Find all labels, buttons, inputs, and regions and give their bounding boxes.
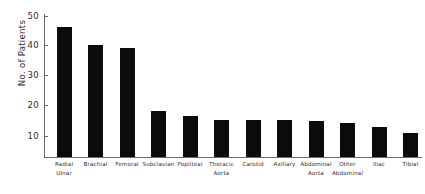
x-axis-label-line1: Abdominal bbox=[300, 161, 331, 167]
bar-4 bbox=[183, 116, 198, 157]
y-tick-label-10: 10 bbox=[11, 131, 39, 141]
x-axis-line bbox=[44, 157, 422, 158]
x-axis-label-line1: Carotid bbox=[242, 161, 263, 167]
x-axis-label-line1: Axillary bbox=[273, 161, 295, 167]
bar-1 bbox=[88, 45, 103, 157]
x-axis-label-line1: Thoracic bbox=[209, 161, 234, 167]
x-axis-label-line2: Aorta bbox=[203, 169, 241, 178]
bar-7 bbox=[277, 120, 292, 157]
y-tick-label-50: 50 bbox=[11, 11, 39, 21]
y-tick-label-40: 40 bbox=[11, 40, 39, 50]
x-axis-label-line2: Ulnar bbox=[45, 169, 83, 178]
bar-0 bbox=[57, 27, 72, 157]
x-axis-label-line1: Other bbox=[339, 161, 356, 167]
x-axis-label-line1: Iliac bbox=[373, 161, 385, 167]
x-axis-label-line1: Popliteal bbox=[177, 161, 202, 167]
bar-2 bbox=[120, 48, 135, 157]
bar-10 bbox=[372, 127, 387, 157]
bar-8 bbox=[309, 121, 324, 157]
x-axis-label-11: Tibial bbox=[392, 160, 425, 169]
x-axis-labels: RadialUlnarBrachialFemoralSubclavianPopl… bbox=[44, 160, 422, 194]
x-axis-label-line1: Tibial bbox=[403, 161, 419, 167]
bar-3 bbox=[151, 111, 166, 157]
bar-5 bbox=[214, 120, 229, 157]
bar-chart: No. of Patients 50 40 30 20 10 RadialUln… bbox=[0, 0, 425, 194]
bar-6 bbox=[246, 120, 261, 157]
x-axis-label-line1: Femoral bbox=[115, 161, 139, 167]
x-axis-label-line2: Abdominal bbox=[329, 169, 367, 178]
x-axis-label-line1: Brachial bbox=[84, 161, 108, 167]
plot-area bbox=[44, 14, 422, 157]
bar-11 bbox=[403, 133, 418, 157]
x-axis-label-line1: Radial bbox=[55, 161, 73, 167]
x-axis-label-line1: Subclavian bbox=[142, 161, 174, 167]
bar-9 bbox=[340, 123, 355, 157]
y-tick-label-30: 30 bbox=[11, 70, 39, 80]
y-tick-label-20: 20 bbox=[11, 100, 39, 110]
